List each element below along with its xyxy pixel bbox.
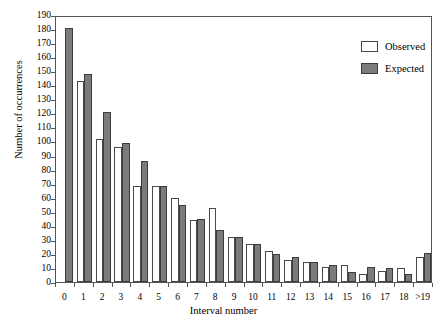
bar-expected-4 <box>141 161 149 282</box>
bar-observed-3 <box>114 147 122 282</box>
bar-expected-0 <box>65 28 73 282</box>
y-tick-label: 10 <box>17 264 51 274</box>
bar-observed-5 <box>152 186 160 282</box>
x-tick-label: 6 <box>175 292 180 302</box>
bar-observed-12 <box>284 260 292 282</box>
x-tick-mark <box>206 283 207 287</box>
x-tick-label: 17 <box>380 292 390 302</box>
x-tick-label: 18 <box>399 292 409 302</box>
bar-expected-9 <box>235 237 243 282</box>
bar-expected-6 <box>179 205 187 282</box>
bar-observed-1 <box>77 81 85 282</box>
bar-expected-8 <box>216 230 224 282</box>
x-tick-mark <box>149 283 150 287</box>
plot-area: Observed Expected <box>55 16 432 283</box>
x-tick-mark <box>244 283 245 287</box>
bar-observed-18 <box>397 268 405 282</box>
bar-expected-3 <box>122 143 130 282</box>
bar-observed-2 <box>96 139 104 282</box>
bar-expected-16 <box>367 267 375 282</box>
y-tick-label: 20 <box>17 250 51 260</box>
bar-chart: 0102030405060708090100110120130140150160… <box>0 0 447 328</box>
bar-observed-13 <box>303 262 311 282</box>
legend-item-observed: Observed <box>361 41 425 52</box>
legend-label-expected: Expected <box>385 63 424 74</box>
x-tick-mark <box>432 283 433 287</box>
bar-expected-7 <box>197 219 205 282</box>
x-tick-label: 4 <box>137 292 142 302</box>
x-tick-mark <box>319 283 320 287</box>
y-tick-label: 30 <box>17 236 51 246</box>
x-tick-label: 14 <box>324 292 334 302</box>
x-tick-mark <box>413 283 414 287</box>
x-tick-label: 11 <box>267 292 276 302</box>
legend-swatch-expected <box>361 63 378 74</box>
bar-expected-14 <box>329 265 337 282</box>
x-tick-mark <box>168 283 169 287</box>
y-axis-ticks: 0102030405060708090100110120130140150160… <box>0 0 51 300</box>
bar-expected-18 <box>405 274 413 282</box>
bar-observed-16 <box>359 274 367 282</box>
y-tick-label: 40 <box>17 222 51 232</box>
x-tick-label: 1 <box>81 292 86 302</box>
x-tick-label: 16 <box>361 292 371 302</box>
y-tick-label: 50 <box>17 208 51 218</box>
bar-observed-14 <box>322 267 330 282</box>
legend-label-observed: Observed <box>385 41 425 52</box>
x-tick-mark <box>93 283 94 287</box>
bar-expected-2 <box>103 112 111 282</box>
x-tick-label: 3 <box>119 292 124 302</box>
x-tick-mark <box>394 283 395 287</box>
bar-observed-17 <box>378 271 386 282</box>
x-tick-mark <box>55 283 56 287</box>
legend-swatch-observed <box>361 41 378 52</box>
x-tick-mark <box>225 283 226 287</box>
x-tick-label: 10 <box>248 292 258 302</box>
bar-observed-11 <box>265 251 273 282</box>
x-tick-label: >19 <box>415 292 430 302</box>
bar-expected-11 <box>273 254 281 282</box>
bar-expected-5 <box>160 186 168 282</box>
x-tick-label: 13 <box>305 292 315 302</box>
x-tick-mark <box>281 283 282 287</box>
x-tick-mark <box>357 283 358 287</box>
y-tick-label: 190 <box>17 11 51 21</box>
x-tick-label: 12 <box>286 292 296 302</box>
x-axis-title: Interval number <box>0 305 447 316</box>
x-tick-label: 15 <box>342 292 352 302</box>
bar-observed-9 <box>228 237 236 282</box>
bar-expected-13 <box>310 262 318 282</box>
bar-expected-12 <box>292 257 300 282</box>
x-tick-mark <box>262 283 263 287</box>
x-tick-label: 0 <box>62 292 67 302</box>
legend-item-expected: Expected <box>361 63 425 74</box>
chart-legend: Observed Expected <box>361 41 425 85</box>
y-tick-label: 60 <box>17 194 51 204</box>
x-tick-mark <box>375 283 376 287</box>
bar-expected-gt19 <box>424 253 432 283</box>
bar-expected-17 <box>386 268 394 282</box>
bar-observed-gt19 <box>416 257 424 282</box>
bar-observed-10 <box>246 244 254 282</box>
bar-expected-1 <box>84 74 92 282</box>
x-tick-label: 2 <box>100 292 105 302</box>
x-tick-mark <box>74 283 75 287</box>
bar-expected-10 <box>254 244 262 282</box>
bar-observed-6 <box>171 198 179 282</box>
x-tick-mark <box>130 283 131 287</box>
x-tick-label: 9 <box>232 292 237 302</box>
bar-observed-4 <box>133 186 141 282</box>
x-tick-mark <box>112 283 113 287</box>
bar-observed-8 <box>209 208 217 282</box>
bar-observed-7 <box>190 220 198 282</box>
x-tick-mark <box>338 283 339 287</box>
x-tick-label: 7 <box>194 292 199 302</box>
y-tick-label: 0 <box>17 278 51 288</box>
x-tick-mark <box>187 283 188 287</box>
x-tick-label: 5 <box>156 292 161 302</box>
bar-observed-15 <box>341 265 349 282</box>
x-tick-label: 8 <box>213 292 218 302</box>
x-tick-mark <box>300 283 301 287</box>
bar-expected-15 <box>348 272 356 282</box>
y-axis-title: Number of occurrences <box>13 30 24 190</box>
